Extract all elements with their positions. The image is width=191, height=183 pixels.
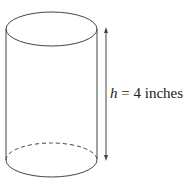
height-label: h = 4 inches [110,85,183,102]
arrow-down-head-icon [104,155,108,161]
height-variable: h [110,85,118,101]
height-value: 4 inches [133,85,183,101]
cylinder-top-ellipse [6,12,97,46]
arrow-up-head-icon [104,27,108,33]
cylinder-bottom-front-arc [6,160,97,177]
equals-sign: = [121,85,129,101]
cylinder-bottom-hidden-arc [6,143,97,160]
